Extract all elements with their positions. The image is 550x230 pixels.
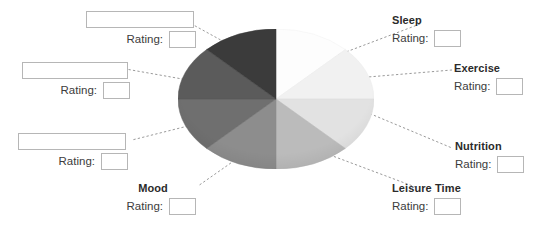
rating-label-blank-top-left: Rating: (127, 33, 163, 46)
label-input-blank-middle-left[interactable] (22, 62, 128, 79)
entry-sleep: Sleep Rating: (392, 14, 461, 47)
entry-nutrition: Nutrition Rating: (455, 140, 524, 173)
rating-input-exercise[interactable] (496, 78, 523, 95)
label-input-blank-bottom-left[interactable] (18, 133, 126, 150)
rating-row-mood: Rating: (86, 198, 196, 215)
rating-label-sleep: Rating: (392, 32, 428, 45)
label-mood: Mood (86, 182, 196, 195)
rating-row-exercise: Rating: (454, 78, 523, 95)
entry-blank-bottom-left: Rating: (18, 133, 128, 170)
label-input-blank-top-left[interactable] (86, 11, 194, 28)
entry-mood: Mood Rating: (86, 182, 196, 215)
rating-label-mood: Rating: (127, 200, 163, 213)
rating-row-sleep: Rating: (392, 30, 461, 47)
rating-row-nutrition: Rating: (455, 156, 524, 173)
rating-row-blank-top-left: Rating: (86, 31, 196, 48)
rating-row-blank-bottom-left: Rating: (18, 153, 128, 170)
rating-label-blank-bottom-left: Rating: (59, 155, 95, 168)
pie-chart (178, 29, 374, 169)
label-nutrition: Nutrition (455, 140, 524, 153)
rating-input-leisure-time[interactable] (434, 198, 461, 215)
entry-blank-top-left: Rating: (86, 11, 196, 48)
rating-input-sleep[interactable] (434, 30, 461, 47)
label-exercise: Exercise (454, 62, 523, 75)
rating-label-blank-middle-left: Rating: (61, 84, 97, 97)
rating-input-blank-middle-left[interactable] (103, 82, 130, 99)
rating-input-blank-top-left[interactable] (169, 31, 196, 48)
rating-input-nutrition[interactable] (497, 156, 524, 173)
rating-label-nutrition: Rating: (455, 158, 491, 171)
entry-exercise: Exercise Rating: (454, 62, 523, 95)
rating-row-blank-middle-left: Rating: (22, 82, 130, 99)
rating-input-blank-bottom-left[interactable] (101, 153, 128, 170)
entry-blank-middle-left: Rating: (22, 62, 130, 99)
rating-label-leisure-time: Rating: (392, 200, 428, 213)
rating-input-mood[interactable] (169, 198, 196, 215)
entry-leisure-time: Leisure Time Rating: (392, 182, 461, 215)
label-sleep: Sleep (392, 14, 461, 27)
pie-shading (178, 29, 374, 169)
rating-label-exercise: Rating: (454, 80, 490, 93)
label-leisure-time: Leisure Time (392, 182, 461, 195)
leader-line-nutrition (366, 112, 452, 148)
wheel-of-life-worksheet: Sleep Rating: Exercise Rating: Nutrition… (0, 0, 550, 230)
rating-row-leisure-time: Rating: (392, 198, 461, 215)
